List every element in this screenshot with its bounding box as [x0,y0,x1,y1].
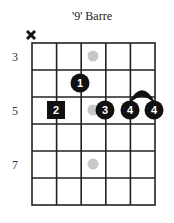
fret-label-3: 3 [12,50,18,64]
inlay-dot-fret7 [88,159,99,170]
finger-label-1: 1 [77,77,83,89]
muted-string-icon [27,31,35,39]
fret-label-5: 5 [12,104,18,118]
chord-diagram: 3 5 7 1 2 3 4 4 [0,0,174,223]
finger-label-4a: 4 [127,104,134,116]
finger-label-4b: 4 [151,104,158,116]
inlay-dot-fret3 [88,51,99,62]
fret-label-7: 7 [12,158,18,172]
finger-label-2: 2 [53,104,59,116]
finger-label-3: 3 [102,104,108,116]
barre-arc [130,91,154,102]
fretboard-grid [32,43,155,205]
